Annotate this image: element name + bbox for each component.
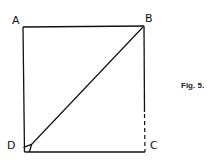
vertex-label-a: A: [12, 14, 20, 27]
vertex-label-d: D: [7, 139, 15, 152]
edge-b-c-dashed: [145, 114, 146, 152]
edge-a-d: [23, 27, 25, 152]
square-diagram: A B C D Fig. 5.: [0, 0, 211, 160]
vertex-label-b: B: [145, 12, 153, 25]
figure-caption: Fig. 5.: [181, 81, 204, 90]
diagonal-arrow-b-to-d: [31, 27, 143, 145]
edge-a-b: [23, 26, 144, 27]
vertex-label-c: C: [150, 139, 158, 152]
edge-b-c-solid: [144, 26, 145, 112]
